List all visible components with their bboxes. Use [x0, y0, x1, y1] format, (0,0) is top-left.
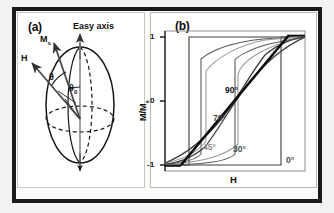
easy-axis-label: Easy axis [73, 22, 114, 31]
magnetization-vector-arrow [54, 43, 80, 119]
angle-connector-2 [65, 99, 80, 119]
magnetization-symbol: M [40, 34, 48, 44]
figure-container: (a) [0, 0, 334, 213]
angle-theta-label: θ [49, 73, 54, 82]
magnetization-label: Ms [40, 35, 51, 46]
y-tick-label-1: 1 [150, 33, 154, 41]
annotation-30deg: 30° [233, 145, 246, 154]
y-tick-label-neg1: -1 [147, 161, 154, 169]
annotation-70deg: 70° [213, 114, 226, 123]
annotation-90deg: 90° [225, 86, 238, 95]
y-axis-label-sub: s [144, 100, 150, 103]
magnetization-subscript: s [48, 40, 51, 46]
field-label: H [21, 54, 28, 63]
annotation-45deg: 45° [203, 143, 216, 152]
angle-theta0-label: θ0 [69, 84, 77, 95]
annotation-0deg: 0° [286, 156, 294, 165]
x-axis-label: H [230, 175, 237, 185]
ellipsoid-meridian-back [80, 47, 92, 163]
panel-a: (a) [17, 12, 145, 188]
y-axis-label: M/Ms [139, 100, 150, 121]
angle-theta0-subscript: 0 [74, 89, 77, 95]
y-axis-label-main: M/M [138, 104, 148, 122]
y-tick-label-0: 0 [150, 97, 154, 105]
ellipsoid-schematic [18, 13, 146, 189]
panel-b: (b) [150, 12, 317, 188]
